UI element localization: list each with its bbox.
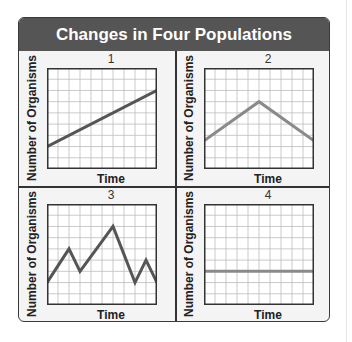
y-axis-label: Number of Organisms bbox=[25, 189, 39, 319]
panel-label: 2 bbox=[204, 52, 330, 66]
panel-3: 3 Number of Organisms Time bbox=[19, 187, 175, 322]
plot-area bbox=[204, 204, 314, 305]
panel-1: 1 Number of Organisms Time bbox=[19, 51, 175, 186]
x-axis-label: Time bbox=[204, 172, 330, 186]
chart-frame: Changes in Four Populations 1 Number of … bbox=[18, 17, 330, 322]
y-axis-label: Number of Organisms bbox=[182, 189, 196, 319]
panel-label: 4 bbox=[204, 188, 330, 202]
chart-title: Changes in Four Populations bbox=[19, 18, 329, 51]
plot-area bbox=[47, 204, 157, 305]
page-border bbox=[346, 0, 347, 342]
panel-2: 2 Number of Organisms Time bbox=[176, 51, 330, 186]
plot-area bbox=[204, 68, 314, 169]
plot-area bbox=[47, 68, 157, 169]
panel-label: 1 bbox=[47, 52, 175, 66]
panel-4: 4 Number of Organisms Time bbox=[176, 187, 330, 322]
panel-label: 3 bbox=[47, 188, 175, 202]
x-axis-label: Time bbox=[204, 308, 330, 322]
x-axis-label: Time bbox=[47, 172, 175, 186]
y-axis-label: Number of Organisms bbox=[182, 53, 196, 183]
y-axis-label: Number of Organisms bbox=[25, 53, 39, 183]
x-axis-label: Time bbox=[47, 308, 175, 322]
